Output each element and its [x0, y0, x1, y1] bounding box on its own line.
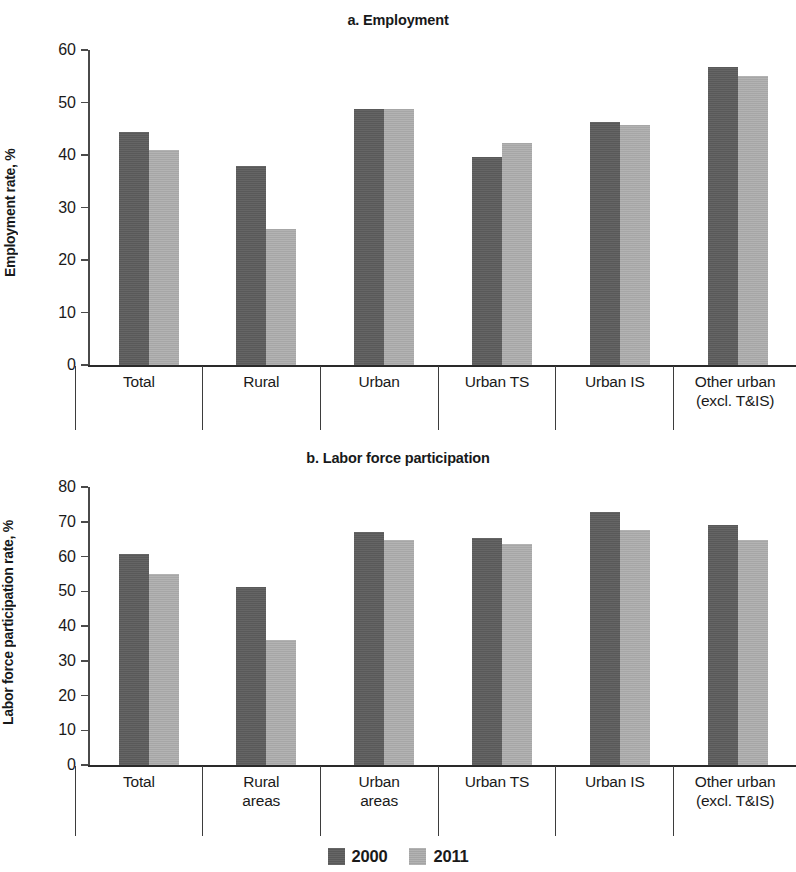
bar-group-total	[90, 50, 207, 365]
bar-urban-ts-2011	[502, 544, 532, 765]
chart-legend: 2000 2011	[0, 847, 796, 866]
bar-rural-areas-2000	[236, 587, 266, 765]
bar-urban-is-2000	[590, 122, 620, 365]
legend-swatch-icon	[328, 848, 345, 865]
panel-b-category-labels: Total Rural areas Urban areas Urban TS U…	[75, 766, 796, 836]
panel-a-category-labels: Total Rural Urban Urban TS Urban IS Othe…	[75, 366, 796, 430]
category-cell-urban-is: Urban IS	[556, 366, 674, 430]
legend-label: 2000	[352, 847, 388, 866]
y-tick-mark	[81, 521, 88, 523]
bar-urban-is-2000	[590, 512, 620, 765]
category-label-line: Total	[123, 773, 155, 792]
category-cell-urban-ts: Urban TS	[439, 366, 557, 430]
category-label-line: Other urban	[695, 373, 776, 392]
bar-other-urban-2000	[708, 525, 738, 766]
legend-swatch-icon	[409, 848, 426, 865]
bar-total-2011	[149, 150, 179, 365]
category-label-line: areas	[360, 792, 398, 811]
category-label-line: Rural	[243, 373, 279, 392]
bar-urban-ts-2011	[502, 143, 532, 365]
bar-group-other-urban	[679, 50, 796, 365]
bar-group-urban-ts	[443, 50, 561, 365]
y-tick-label: 60	[58, 548, 81, 564]
category-label-line: Urban TS	[465, 373, 529, 392]
category-label-line: Other urban	[695, 773, 776, 792]
category-cell-rural: Rural	[203, 366, 321, 430]
panel-b-bars	[90, 487, 796, 765]
y-tick-label: 10	[58, 722, 81, 738]
y-tick-mark	[81, 730, 88, 732]
category-cell-urban: Urban	[321, 366, 439, 430]
category-cell-rural-areas: Rural areas	[203, 766, 321, 836]
bar-rural-2000	[236, 166, 266, 366]
bar-other-urban-2011	[738, 540, 768, 765]
category-cell-other-urban: Other urban (excl. T&IS)	[674, 366, 796, 430]
y-tick-label: 50	[58, 583, 81, 599]
bar-other-urban-2000	[708, 67, 738, 365]
y-tick-mark	[81, 591, 88, 593]
category-cell-total: Total	[76, 766, 203, 836]
y-tick-mark	[81, 695, 88, 697]
category-label-line: Total	[123, 373, 155, 392]
panel-b-y-ticks: 0 10 20 30 40 50 60 70 80	[28, 0, 88, 872]
category-label-line: Urban IS	[585, 373, 645, 392]
y-tick-label: 30	[58, 652, 81, 668]
y-tick-label: 70	[58, 513, 81, 529]
panel-a-bars	[90, 50, 796, 365]
y-tick-mark	[81, 625, 88, 627]
bar-urban-2011	[384, 109, 414, 365]
category-label-line: Urban TS	[465, 773, 529, 792]
bar-total-2011	[149, 574, 179, 765]
bar-urban-ts-2000	[472, 157, 502, 365]
category-label-line: (excl. T&IS)	[696, 792, 774, 811]
bar-urban-ts-2000	[472, 538, 502, 765]
category-cell-other-urban: Other urban (excl. T&IS)	[674, 766, 796, 836]
legend-item-2000[interactable]: 2000	[328, 847, 388, 866]
bar-urban-areas-2011	[384, 540, 414, 765]
bar-group-urban	[325, 50, 443, 365]
bar-group-total	[90, 487, 207, 765]
y-tick-mark	[81, 486, 88, 488]
bar-rural-2011	[266, 229, 296, 366]
bar-total-2000	[119, 554, 149, 765]
legend-item-2011[interactable]: 2011	[409, 847, 468, 866]
category-label-line: Urban IS	[585, 773, 645, 792]
bar-urban-areas-2000	[354, 532, 384, 765]
bar-urban-is-2011	[620, 125, 650, 365]
panel-a-title: a. Employment	[0, 12, 796, 28]
category-label-line: Rural	[243, 773, 279, 792]
y-tick-label: 40	[58, 618, 81, 634]
legend-label: 2011	[433, 847, 468, 866]
bar-urban-2000	[354, 109, 384, 365]
bar-rural-areas-2011	[266, 640, 296, 765]
bar-group-urban-areas	[325, 487, 443, 765]
bar-group-rural	[207, 50, 325, 365]
bar-total-2000	[119, 132, 149, 365]
category-cell-total: Total	[76, 366, 203, 430]
category-label-line: Urban	[358, 373, 399, 392]
bar-other-urban-2011	[738, 76, 768, 365]
category-label-line: (excl. T&IS)	[696, 392, 774, 411]
category-cell-urban-areas: Urban areas	[321, 766, 439, 836]
bar-urban-is-2011	[620, 530, 650, 765]
category-cell-urban-is: Urban IS	[556, 766, 674, 836]
category-cell-urban-ts: Urban TS	[439, 766, 557, 836]
y-tick-mark	[81, 660, 88, 662]
bar-group-urban-is	[561, 487, 679, 765]
y-tick-label: 80	[58, 479, 81, 495]
category-label-line: Urban	[358, 773, 399, 792]
bar-group-urban-is	[561, 50, 679, 365]
y-tick-label: 20	[58, 687, 81, 703]
bar-group-urban-ts	[443, 487, 561, 765]
bar-group-other-urban	[679, 487, 796, 765]
y-tick-mark	[81, 556, 88, 558]
panel-a-y-axis-label: Employment rate, %	[2, 95, 24, 330]
category-label-line: areas	[242, 792, 280, 811]
panel-b-y-axis-label: Labor force participation rate, %	[0, 478, 22, 768]
panel-b-title: b. Labor force participation	[0, 450, 796, 466]
bar-group-rural-areas	[207, 487, 325, 765]
